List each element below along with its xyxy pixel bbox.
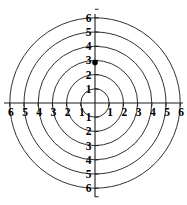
polar-chart-svg: 654321123456123456123456 xyxy=(0,0,187,205)
y-label-neg-5: 5 xyxy=(86,168,92,180)
x-label-pos-3: 3 xyxy=(136,106,142,118)
x-label-pos-1: 1 xyxy=(107,106,113,118)
y-label-pos-2: 2 xyxy=(86,69,92,81)
x-label-neg-4: 4 xyxy=(36,106,42,118)
polar-grid-figure: 654321123456123456123456 xyxy=(0,0,187,205)
y-label-pos-1: 1 xyxy=(86,83,92,95)
x-label-neg-5: 5 xyxy=(22,106,28,118)
x-label-neg-3: 3 xyxy=(51,106,57,118)
y-label-neg-4: 4 xyxy=(86,154,92,166)
y-label-pos-4: 4 xyxy=(86,40,92,52)
x-label-pos-2: 2 xyxy=(122,106,128,118)
axis-lines xyxy=(4,14,183,197)
y-label-neg-3: 3 xyxy=(86,140,92,152)
data-point-0-0 xyxy=(92,60,97,65)
y-label-pos-3: 3 xyxy=(86,54,92,66)
y-label-pos-5: 5 xyxy=(86,26,92,38)
x-label-neg-6: 6 xyxy=(8,106,14,118)
y-label-pos-6: 6 xyxy=(86,12,92,24)
x-label-pos-5: 5 xyxy=(164,106,170,118)
y-label-neg-1: 1 xyxy=(86,111,92,123)
x-label-neg-2: 2 xyxy=(65,106,71,118)
x-label-pos-4: 4 xyxy=(150,106,156,118)
x-label-pos-6: 6 xyxy=(178,106,184,118)
plotted-data-points xyxy=(92,60,97,65)
y-label-neg-6: 6 xyxy=(86,182,92,194)
x-label-neg-1: 1 xyxy=(79,106,85,118)
y-label-neg-2: 2 xyxy=(86,125,92,137)
